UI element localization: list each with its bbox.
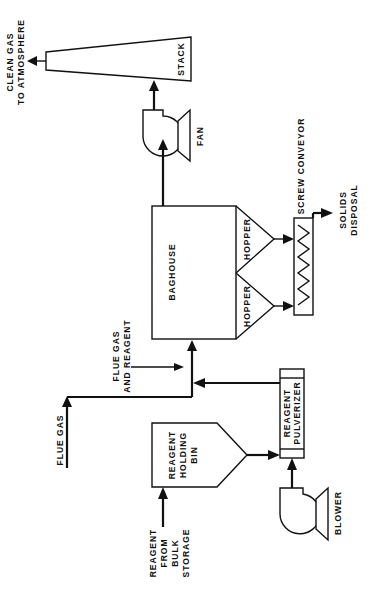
solids-disposal-label: SOLIDS DISPOSAL	[338, 184, 359, 235]
bin-label-line3: BIN	[189, 446, 199, 464]
baghouse: BAGHOUSE	[152, 206, 236, 339]
clean-gas-outlet-arrow	[27, 56, 46, 66]
blower-to-pulverizer-arrow	[287, 458, 297, 488]
bin-label-line1: REAGENT	[167, 431, 177, 480]
stack-label: STACK	[176, 42, 186, 76]
screw-conveyor-label: SCREW CONVEYOR	[296, 118, 306, 215]
pulverizer-to-riser-arrow	[193, 378, 280, 388]
blower-label: BLOWER	[333, 491, 343, 535]
hopper-lower-label: HOPPER	[242, 285, 252, 327]
svg-text:BULK: BULK	[170, 539, 180, 567]
process-flow-diagram: STACK CLEAN GAS TO ATMOSPHERE FAN BAGHOU…	[0, 0, 373, 608]
flue-gas-and-reagent-pointer	[131, 363, 184, 371]
flue-gas-and-reagent-label: FLUE GAS AND REAGENT	[111, 319, 132, 392]
svg-text:AND REAGENT: AND REAGENT	[122, 319, 132, 392]
bulk-storage-arrow	[158, 487, 168, 527]
hopper-lower: HOPPER	[236, 273, 274, 339]
bin-label-line2: HOLDING	[178, 432, 188, 478]
reagent-from-bulk-storage-label: REAGENT FROM BULK STORAGE	[148, 529, 191, 578]
svg-text:DISPOSAL: DISPOSAL	[349, 184, 359, 235]
reagent-holding-bin: REAGENT HOLDING BIN	[152, 423, 247, 487]
fan-label: FAN	[195, 126, 205, 146]
svg-text:FLUE GAS: FLUE GAS	[55, 415, 65, 466]
svg-text:TO ATMOSPHERE: TO ATMOSPHERE	[16, 19, 26, 105]
fan: FAN	[143, 110, 205, 161]
flue-gas-label: FLUE GAS	[55, 415, 65, 466]
clean-gas-label: CLEAN GAS TO ATMOSPHERE	[5, 19, 26, 105]
svg-text:STORAGE: STORAGE	[181, 529, 191, 578]
svg-text:REAGENT: REAGENT	[148, 529, 158, 578]
bin-to-pulverizer-arrow	[247, 450, 280, 460]
svg-text:FROM: FROM	[159, 538, 169, 567]
pulverizer-label-line2: PULVERIZER	[292, 381, 302, 444]
hopper-upper-label: HOPPER	[242, 218, 252, 260]
reagent-pulverizer: REAGENT PULVERIZER	[280, 369, 304, 458]
baghouse-label: BAGHOUSE	[167, 243, 177, 300]
svg-text:CLEAN GAS: CLEAN GAS	[5, 32, 15, 91]
blower: BLOWER	[280, 488, 343, 540]
stack: STACK	[46, 37, 191, 81]
hopper-upper: HOPPER	[236, 206, 274, 273]
screw-conveyor: SCREW CONVEYOR	[294, 118, 313, 315]
svg-text:FLUE GAS: FLUE GAS	[111, 331, 121, 382]
hopper-to-screw-arrows	[274, 234, 294, 311]
baghouse-to-fan-arrow	[158, 139, 168, 206]
svg-text:SOLIDS: SOLIDS	[338, 191, 348, 229]
pulverizer-label-line1: REAGENT	[282, 389, 292, 438]
fan-to-stack-arrow	[149, 80, 159, 110]
solids-disposal-arrow	[313, 208, 333, 218]
